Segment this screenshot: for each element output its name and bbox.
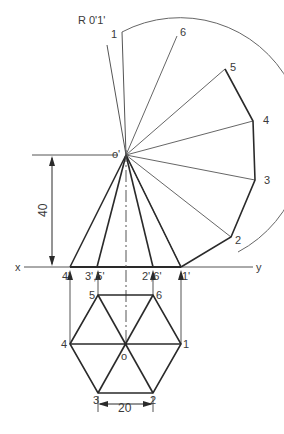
top-label-4: 4 bbox=[61, 338, 67, 350]
top-center-point bbox=[124, 342, 127, 345]
projection-diagram: x y 40 bbox=[0, 0, 284, 434]
arc-label-2: 2 bbox=[235, 234, 241, 246]
arc-label-4: 4 bbox=[263, 114, 269, 126]
apex-top-label: o bbox=[121, 350, 127, 362]
height-dim-label: 40 bbox=[36, 203, 50, 217]
front-label-26: 2',6' bbox=[142, 270, 162, 282]
arc-label-6: 6 bbox=[180, 26, 186, 38]
top-label-1: 1 bbox=[183, 338, 189, 350]
side-dim-label: 20 bbox=[118, 401, 132, 415]
arc-label-1: 1 bbox=[111, 28, 117, 40]
front-label-1: 1' bbox=[182, 270, 190, 282]
axis-y-label: y bbox=[256, 261, 262, 273]
front-label-35: 3',5' bbox=[85, 270, 105, 282]
axis-x-label: x bbox=[15, 261, 21, 273]
front-label-4: 4' bbox=[62, 270, 70, 282]
apex-front-label: o' bbox=[112, 148, 120, 160]
top-label-5: 5 bbox=[89, 289, 95, 301]
arc-label-5: 5 bbox=[230, 61, 236, 73]
arc-label-3: 3 bbox=[264, 174, 270, 186]
radius-label: R 0'1' bbox=[78, 14, 105, 26]
top-label-6: 6 bbox=[156, 289, 162, 301]
top-label-2: 2 bbox=[150, 394, 156, 406]
top-label-3: 3 bbox=[93, 394, 99, 406]
